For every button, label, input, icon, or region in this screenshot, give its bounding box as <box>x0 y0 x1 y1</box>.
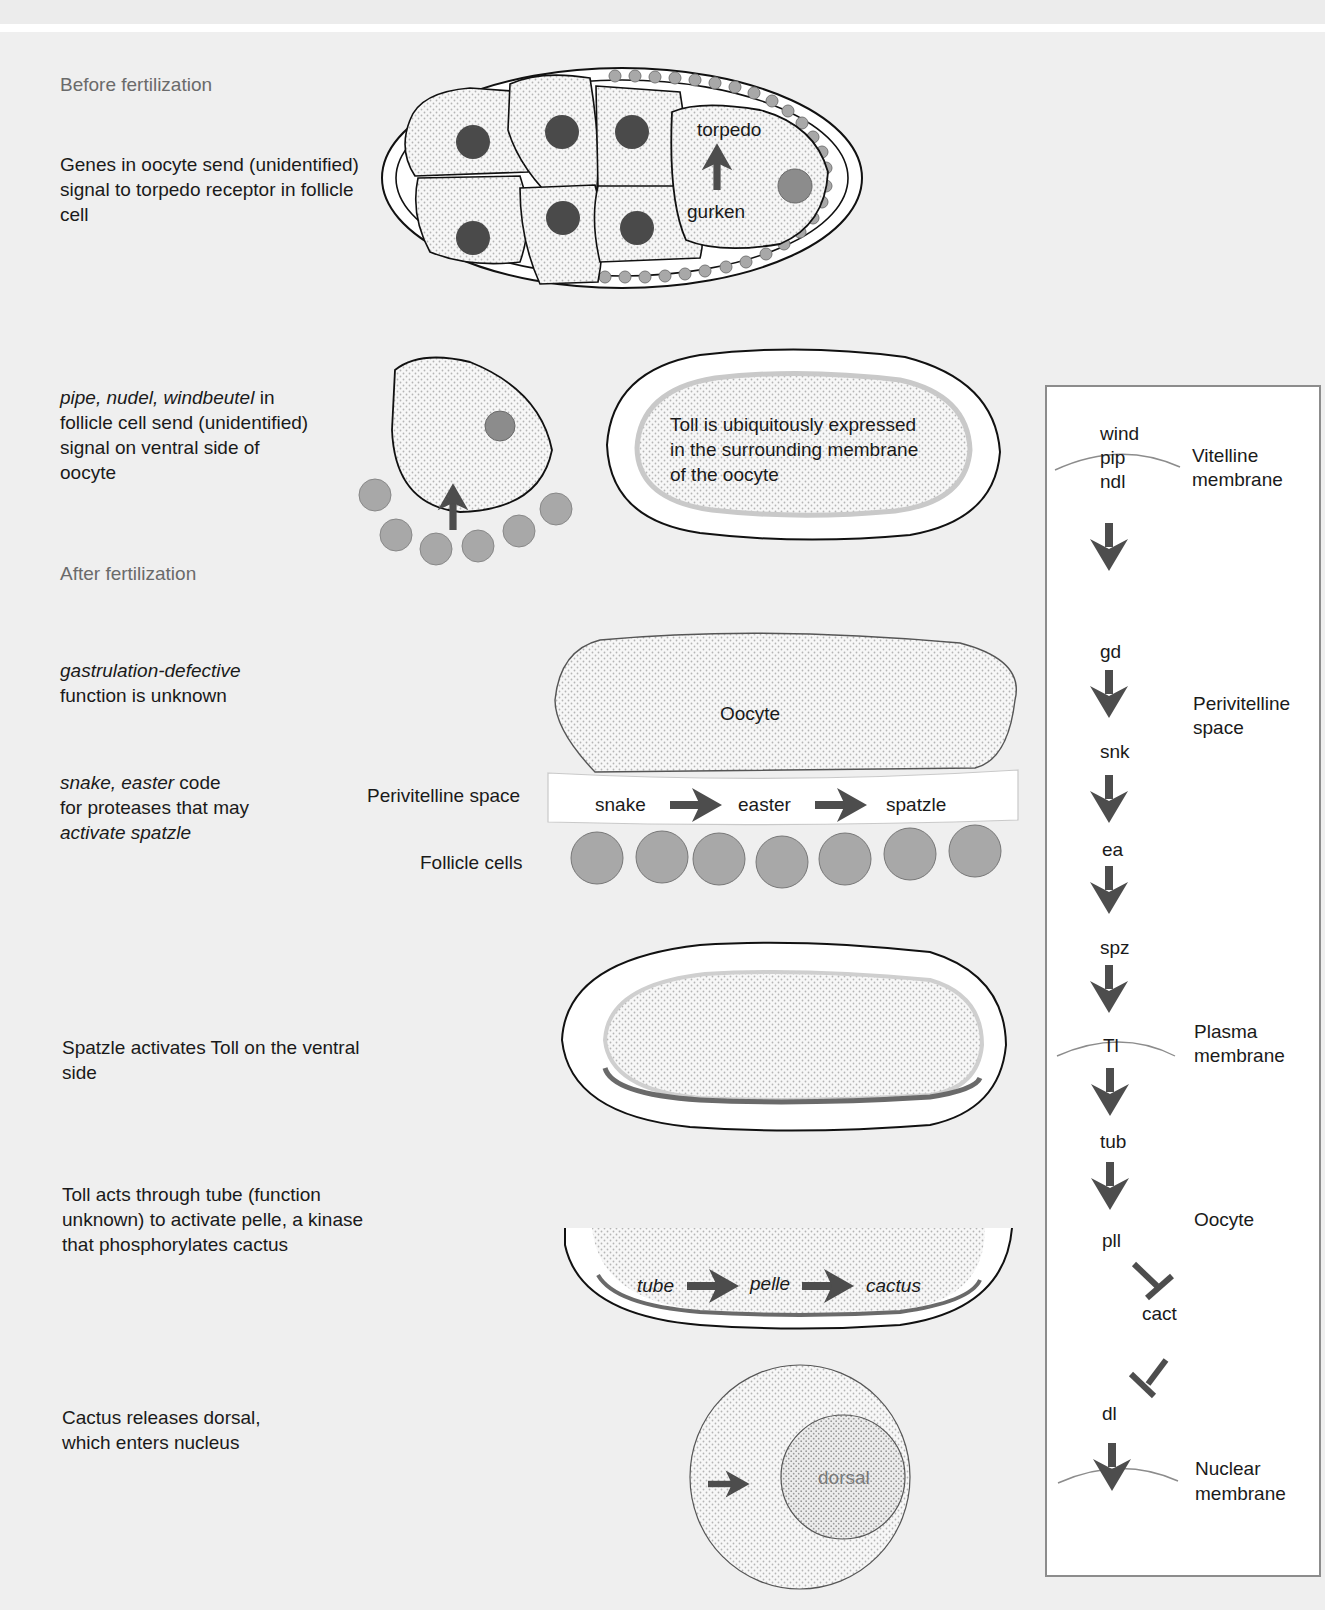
pathway-chart: wind pip ndl Vitelline membrane gd Periv… <box>1055 423 1290 1504</box>
label-follicle-cells: Follicle cells <box>420 852 522 873</box>
pathway-arrow <box>1090 965 1128 1013</box>
gene-pip: pip <box>1100 447 1125 468</box>
gene-snk: snk <box>1100 741 1130 762</box>
pathway-arrow <box>1091 1162 1129 1210</box>
label-perivitelline-space: Perivitelline space <box>367 785 520 806</box>
egg-chamber-diagram: torpedo gurken <box>382 68 862 288</box>
compartment-nuclear: Nuclear <box>1195 1458 1261 1479</box>
follicle-cells-row <box>571 825 1001 888</box>
label-tube: tube <box>637 1275 674 1296</box>
compartment-nuclear: membrane <box>1195 1483 1286 1504</box>
pathway-arrow <box>1090 670 1128 718</box>
label-spatzle: spatzle <box>886 794 946 815</box>
follicle-signal-diagram <box>359 358 572 566</box>
gene-wind: wind <box>1099 423 1139 444</box>
gene-tl: Tl <box>1103 1035 1119 1056</box>
compartment-plasma: Plasma <box>1194 1021 1258 1042</box>
gene-gd: gd <box>1100 641 1121 662</box>
gene-cact: cact <box>1142 1303 1178 1324</box>
label-torpedo: torpedo <box>697 119 761 140</box>
nurse-nucleus <box>456 125 490 159</box>
label-gurken: gurken <box>687 201 745 222</box>
compartment-perivitelline: Perivitelline <box>1193 693 1290 714</box>
compartment-vitelline: membrane <box>1192 469 1283 490</box>
oocyte-nucleus <box>778 169 812 203</box>
label-oocyte: Oocyte <box>720 703 780 724</box>
compartment-oocyte: Oocyte <box>1194 1209 1254 1230</box>
diagram-canvas: torpedo gurken Toll is ubiquitously expr… <box>0 0 1343 1620</box>
gene-ndl: ndl <box>1100 471 1125 492</box>
pathway-arrow <box>1090 523 1128 571</box>
toll-text-line: Toll is ubiquitously expressed <box>670 414 916 435</box>
nurse-nucleus <box>545 115 579 149</box>
compartment-vitelline: Vitelline <box>1192 445 1258 466</box>
nurse-nucleus <box>615 115 649 149</box>
nucleus-diagram: dorsal <box>690 1365 910 1589</box>
nurse-nucleus <box>456 221 490 255</box>
nurse-nucleus <box>620 211 654 245</box>
toll-ventral-embryo <box>562 943 1006 1131</box>
inhibition-pll-cact <box>1134 1264 1172 1298</box>
toll-text-line: of the oocyte <box>670 464 779 485</box>
inhibition-cact-dl <box>1131 1360 1166 1396</box>
pathway-arrow <box>1093 1443 1131 1491</box>
pathway-arrow <box>1090 866 1128 914</box>
perivitelline-diagram: Oocyte Perivitelline space snake easter … <box>367 633 1018 888</box>
label-dorsal: dorsal <box>818 1467 870 1488</box>
pathway-arrow <box>1090 775 1128 823</box>
intracellular-cascade-diagram: tube pelle cactus <box>565 1228 1012 1329</box>
gene-ea: ea <box>1102 839 1124 860</box>
label-easter: easter <box>738 794 791 815</box>
toll-ubiquitous-embryo: Toll is ubiquitously expressed in the su… <box>607 349 1000 539</box>
pathway-arrow <box>1091 1068 1129 1116</box>
label-pelle: pelle <box>749 1273 790 1294</box>
gene-dl: dl <box>1102 1403 1117 1424</box>
gene-spz: spz <box>1100 937 1130 958</box>
compartment-perivitelline: space <box>1193 717 1244 738</box>
compartment-plasma: membrane <box>1194 1045 1285 1066</box>
label-cactus: cactus <box>866 1275 921 1296</box>
gene-tub: tub <box>1100 1131 1126 1152</box>
nurse-nucleus <box>546 201 580 235</box>
gene-pll: pll <box>1102 1230 1121 1251</box>
label-snake: snake <box>595 794 646 815</box>
toll-text-line: in the surrounding membrane <box>670 439 918 460</box>
